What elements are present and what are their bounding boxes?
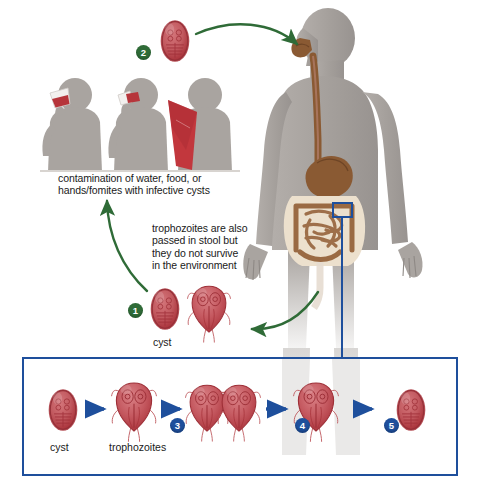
intracellular-panel: cyst trophozoites [22,357,458,476]
panel-cyst-formed [397,389,426,431]
person-with-towel-figure [168,78,232,172]
contamination-caption: contamination of water, food, or hands/f… [58,172,258,197]
panel-cyst [49,389,78,431]
panel-cyst-label: cyst [50,441,69,453]
giardia-lifecycle-diagram: cyst trophozoites contamination of water… [0,0,481,493]
excreted-trophozoite [188,286,231,342]
marker-2: 2 [136,45,151,60]
cyst-label-upper: cyst [153,336,171,348]
person-drinking-water-figure [42,78,102,172]
panel-trophozoite [112,383,157,441]
arrow-ingestion [196,24,297,44]
arrow-contamination [107,201,147,291]
glass-of-water [50,88,70,108]
panel-trophozoites-label: trophozoites [109,441,166,453]
marker-3: 3 [170,418,185,433]
marker-1: 1 [128,303,143,318]
trophozoite-caption: trophozoites are also passed in stool bu… [152,222,272,272]
contaminated-towel [168,100,197,170]
exposure-figures-group [40,78,240,172]
person-eating-food-figure [108,78,168,172]
excreted-cyst [151,288,180,330]
right-hand [398,242,423,278]
panel-dividing-trophozoites [186,385,261,441]
marker-4: 4 [295,418,310,433]
panel-artwork [24,359,456,474]
infective-cyst-ingested [161,20,190,62]
marker-5: 5 [384,418,399,433]
